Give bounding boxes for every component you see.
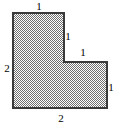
l-shape-polygon — [13, 13, 107, 108]
right-edge-label: 1 — [105, 82, 117, 93]
step-edge-label: 1 — [77, 47, 89, 58]
left-edge-label: 2 — [1, 63, 13, 74]
l-shape-diagram — [0, 0, 119, 130]
bottom-edge-label: 2 — [55, 113, 67, 124]
figure-container: 1 1 1 1 2 2 — [0, 0, 119, 130]
upper-right-edge-label: 1 — [62, 31, 74, 42]
top-edge-label: 1 — [33, 1, 45, 12]
